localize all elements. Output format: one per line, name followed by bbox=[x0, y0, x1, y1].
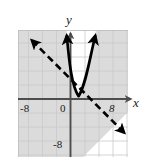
x-tick-label-positive-eight: 8 bbox=[109, 103, 115, 114]
x-tick-label-negative-eight: -8 bbox=[20, 103, 29, 114]
shaded-solution-region bbox=[18, 30, 128, 157]
y-tick-label-negative-eight: -8 bbox=[53, 139, 62, 150]
origin-label: 0 bbox=[60, 103, 66, 114]
graph-figure: x y -8 0 8 -8 bbox=[0, 0, 149, 157]
x-axis-label: x bbox=[133, 96, 139, 109]
coordinate-plane-svg bbox=[0, 0, 149, 157]
y-axis-label: y bbox=[66, 13, 72, 26]
